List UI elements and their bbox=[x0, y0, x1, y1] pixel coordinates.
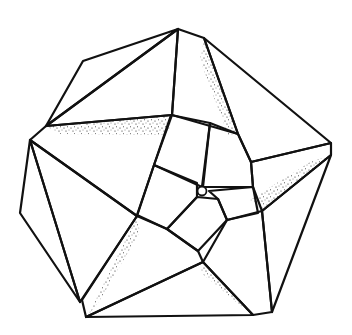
polyhedron-drawing bbox=[0, 0, 352, 335]
face-top-left-inner bbox=[46, 29, 178, 126]
face-left-inner bbox=[30, 140, 137, 302]
figure-canvas: Line drawing of a pentagonal polyhedral … bbox=[0, 0, 352, 335]
hatch-piece-bottom bbox=[167, 197, 227, 251]
stipple-shading bbox=[46, 38, 331, 317]
face-left-outer bbox=[20, 140, 80, 302]
face-bottom-left-inner bbox=[82, 216, 203, 317]
center-hole bbox=[198, 187, 207, 196]
